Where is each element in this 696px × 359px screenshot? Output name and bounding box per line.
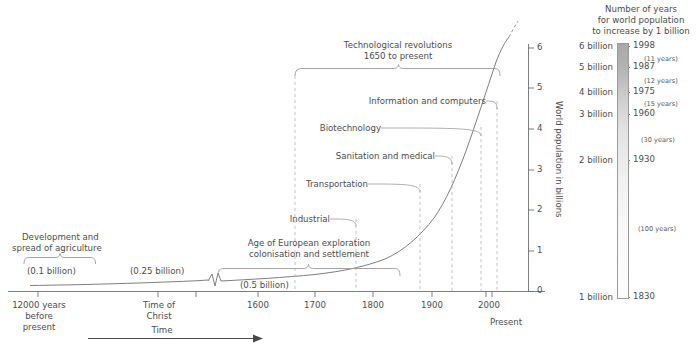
revolution-label-information: Information and computers	[336, 96, 486, 107]
xtick-label-1800: 1800	[353, 300, 393, 311]
population-curve-ancient	[30, 280, 208, 286]
bracket-exploration-label-line2: colonisation and settlement	[219, 249, 399, 260]
note-0-1-billion: (0.1 billion)	[27, 266, 76, 277]
note-0-5-billion: (0.5 billion)	[240, 280, 289, 291]
leader-biotechnology	[381, 128, 481, 136]
xlabel-christ-line2: Christ	[124, 311, 194, 322]
milestone-year-1930: 1930	[633, 154, 655, 165]
ytick-label-1: 1	[537, 245, 542, 256]
sidebar-title-line2: for world population	[586, 15, 696, 26]
revolution-label-industrial: Industrial	[280, 214, 330, 225]
bracket-technological-label-line2: 1650 to present	[298, 51, 498, 62]
axis-break-zigzag	[208, 273, 221, 286]
leader-transportation	[368, 184, 420, 192]
milestone-population-6b: 6 billion	[565, 41, 613, 52]
bracket-technological-label-line1: Technological revolutions	[298, 40, 498, 51]
interval-note-100-years: (100 years)	[638, 224, 676, 235]
xlabel-12000-line3: present	[0, 322, 78, 333]
bracket-exploration	[218, 265, 400, 277]
xlabel-12000-line2: before	[0, 311, 78, 322]
leader-information	[486, 101, 497, 109]
ytick-label-5: 5	[537, 82, 542, 93]
milestone-population-1b: 1 billion	[565, 292, 613, 303]
population-curve-projection	[509, 21, 518, 37]
leader-industrial	[330, 219, 356, 226]
y-axis-ticks	[529, 48, 535, 292]
interval-note-12-years: (12 years)	[644, 76, 678, 87]
milestone-population-5b: 5 billion	[565, 62, 613, 73]
note-0-25-billion: (0.25 billion)	[130, 266, 184, 277]
revolution-label-biotechnology: Biotechnology	[296, 123, 381, 134]
milestone-population-2b: 2 billion	[565, 155, 613, 166]
milestone-population-3b: 3 billion	[565, 109, 613, 120]
bracket-agriculture-label-line2: spread of agriculture	[12, 243, 102, 254]
milestone-year-1830: 1830	[633, 291, 655, 302]
bracket-exploration-label-line1: Age of European exploration	[219, 238, 399, 249]
y-axis-title: World population in billions	[554, 101, 564, 218]
xlabel-12000-line1: 12000 years	[0, 300, 78, 311]
ytick-label-4: 4	[537, 123, 542, 134]
milestone-year-1975: 1975	[633, 86, 655, 97]
milestone-year-1998: 1998	[633, 40, 655, 51]
xtick-label-1900: 1900	[412, 300, 452, 311]
ytick-label-0: 0	[537, 285, 542, 296]
population-interval-gradient-bar	[617, 43, 629, 299]
leader-sanitation	[435, 156, 452, 164]
xtick-label-1700: 1700	[295, 300, 335, 311]
ytick-label-3: 3	[537, 164, 542, 175]
interval-note-15-years: (15 years)	[644, 99, 678, 110]
ytick-label-6: 6	[537, 42, 542, 53]
bracket-agriculture	[24, 254, 96, 265]
xtick-label-1600: 1600	[238, 300, 278, 311]
sidebar-title-line1: Number of years	[586, 4, 696, 15]
revolution-label-sanitation: Sanitation and medical	[306, 151, 435, 162]
time-axis-label: Time	[140, 325, 184, 336]
revolution-label-transportation: Transportation	[293, 179, 368, 190]
bracket-agriculture-label-line1: Development and	[22, 232, 99, 243]
ytick-label-2: 2	[537, 204, 542, 215]
time-arrow-head	[253, 335, 263, 343]
sidebar-title-line3: to increase by 1 billion	[586, 26, 696, 37]
interval-note-30-years: (30 years)	[641, 135, 675, 146]
revolution-leader-lines	[330, 101, 497, 226]
present-label: Present	[478, 317, 534, 328]
milestone-population-4b: 4 billion	[565, 87, 613, 98]
population-growth-figure: Development and spread of agriculture (0…	[0, 0, 696, 359]
interval-note-11-years: (11 years)	[644, 54, 678, 65]
bracket-technological	[295, 65, 500, 77]
xtick-label-2000: 2000	[469, 300, 509, 311]
xlabel-christ-line1: Time of	[124, 300, 194, 311]
